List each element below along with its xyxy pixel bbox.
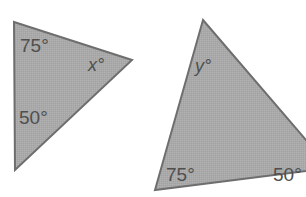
figure-canvas: 75° x° 50° y° 75° 50° (0, 0, 306, 197)
geometry-figure: 75° x° 50° y° 75° 50° (0, 0, 306, 197)
angle-label-75-right-triangle: 75° (166, 164, 195, 185)
angle-label-75-left-triangle: 75° (20, 35, 49, 56)
angle-label-50-right-triangle: 50° (273, 164, 302, 185)
angle-label-x-left-triangle: x° (87, 55, 104, 75)
angle-label-y-right-triangle: y° (193, 56, 211, 76)
angle-label-50-left-triangle: 50° (19, 107, 48, 128)
